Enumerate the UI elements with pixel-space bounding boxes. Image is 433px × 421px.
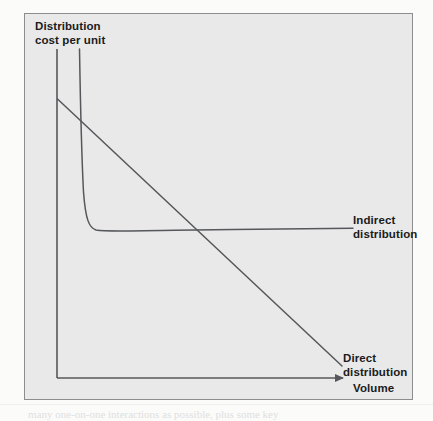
series-indirect-distribution bbox=[80, 49, 354, 231]
chart-plot bbox=[25, 14, 414, 401]
y-axis-label: Distribution cost per unit bbox=[35, 20, 105, 47]
series-direct-distribution bbox=[58, 99, 343, 366]
figure-frame: Distribution cost per unit Indirect dist… bbox=[24, 13, 413, 400]
backdrop-body-line: many one-on-one interactions as possible… bbox=[28, 408, 279, 420]
series-label-indirect: Indirect distribution bbox=[353, 214, 417, 241]
series-label-direct: Direct distribution bbox=[343, 352, 407, 379]
backdrop-rule bbox=[0, 404, 433, 405]
x-axis-label: Volume bbox=[353, 382, 394, 396]
